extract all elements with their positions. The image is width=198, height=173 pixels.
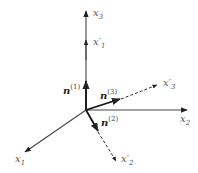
x2-prime-axis — [98, 132, 116, 161]
n1-label: n(1) — [63, 83, 80, 96]
x1-prime-label: x′1 — [93, 36, 105, 50]
x1-label: x1 — [15, 153, 25, 167]
n2-label: n(2) — [101, 115, 118, 128]
x2-label: x2 — [180, 113, 191, 127]
x1-axis — [25, 110, 86, 152]
x3-prime-axis — [121, 85, 157, 99]
n3-label: n(3) — [100, 88, 117, 101]
x2-prime-label: x′2 — [121, 153, 134, 167]
coordinate-diagram: x3 x′1 n(1) n(3) x′3 x2 n(2) x1 x′2 — [0, 0, 198, 173]
x3-label: x3 — [93, 7, 104, 21]
x3-prime-label: x′3 — [163, 77, 176, 91]
n2-vector — [86, 110, 98, 131]
